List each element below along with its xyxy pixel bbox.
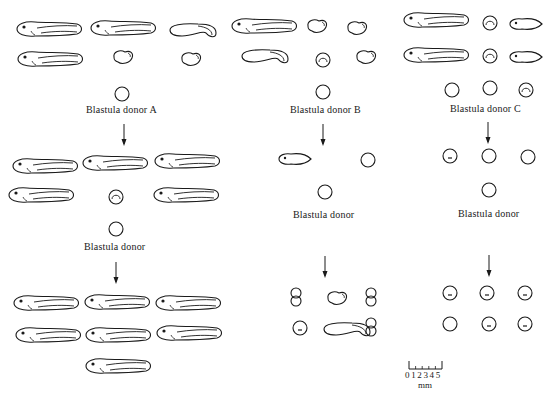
abnormal-embryo bbox=[242, 50, 288, 63]
column-a-generation-2 bbox=[9, 154, 220, 236]
tadpole bbox=[16, 328, 81, 342]
donor-label-c: Blastula donor C bbox=[450, 103, 521, 114]
tadpole bbox=[18, 52, 83, 66]
blastula bbox=[316, 53, 330, 67]
serial-transplant-diagram bbox=[0, 0, 547, 398]
abnormal-embryo bbox=[348, 22, 367, 35]
column-c-generation-2 bbox=[443, 149, 535, 197]
blastula bbox=[521, 150, 535, 164]
second-donor-label-b: Blastula donor bbox=[293, 209, 354, 220]
tadpole bbox=[14, 296, 79, 310]
scale-bar bbox=[409, 361, 442, 369]
blastula bbox=[518, 286, 532, 300]
column-a-generation-1 bbox=[17, 21, 216, 101]
tadpole bbox=[86, 359, 151, 373]
tadpole bbox=[91, 21, 156, 35]
column-a-generation-3 bbox=[14, 295, 222, 373]
abnormal-embryo bbox=[324, 323, 370, 336]
tadpole bbox=[155, 154, 220, 168]
abnormal-embryo bbox=[170, 24, 216, 37]
arrow-down-icon bbox=[122, 124, 127, 146]
blastula bbox=[316, 85, 330, 99]
blastula bbox=[115, 87, 129, 101]
blastula bbox=[445, 83, 459, 97]
tadpole bbox=[232, 19, 297, 33]
blastula bbox=[482, 149, 496, 163]
abnormal-embryo bbox=[366, 288, 376, 306]
blastula bbox=[482, 317, 496, 331]
blastula bbox=[483, 16, 497, 30]
tadpole bbox=[404, 13, 469, 27]
tadpole bbox=[154, 188, 219, 202]
tadpole bbox=[157, 326, 222, 340]
arrow-down-icon bbox=[486, 122, 491, 144]
tadpole bbox=[279, 154, 311, 165]
blastula bbox=[109, 222, 123, 236]
tadpole bbox=[86, 328, 151, 342]
blastula bbox=[518, 317, 532, 331]
abnormal-embryo bbox=[366, 318, 376, 336]
column-c-generation-3 bbox=[443, 286, 532, 331]
blastula bbox=[519, 83, 533, 97]
blastula bbox=[318, 185, 332, 199]
abnormal-embryo bbox=[293, 321, 307, 335]
abnormal-embryo bbox=[182, 53, 201, 66]
tadpole bbox=[9, 188, 74, 202]
second-donor-label-a: Blastula donor bbox=[84, 241, 145, 252]
blastula bbox=[443, 149, 457, 163]
blastula bbox=[483, 49, 497, 63]
abnormal-embryo bbox=[510, 52, 542, 63]
abnormal-embryo bbox=[328, 292, 347, 305]
column-c-generation-1 bbox=[404, 13, 542, 97]
arrow-down-icon bbox=[323, 256, 328, 278]
arrow-down-icon bbox=[114, 262, 119, 284]
blastula bbox=[109, 190, 123, 204]
tadpole bbox=[404, 48, 469, 62]
column-b-generation-3 bbox=[291, 288, 376, 336]
tadpole bbox=[85, 295, 150, 309]
tadpole bbox=[17, 22, 82, 36]
scale-bar-unit: mm bbox=[418, 380, 432, 390]
second-donor-label-c: Blastula donor bbox=[458, 208, 519, 219]
blastula bbox=[482, 183, 496, 197]
blastula bbox=[483, 81, 497, 95]
tadpole bbox=[156, 296, 221, 310]
donor-label-a: Blastula donor A bbox=[86, 104, 157, 115]
blastula bbox=[361, 153, 375, 167]
arrow-down-icon bbox=[321, 124, 326, 146]
column-b-generation-1 bbox=[232, 19, 376, 99]
donor-label-b: Blastula donor B bbox=[290, 104, 361, 115]
abnormal-embryo bbox=[114, 51, 133, 64]
column-b-generation-2 bbox=[279, 153, 375, 199]
abnormal-embryo bbox=[357, 51, 376, 64]
abnormal-embryo bbox=[308, 20, 327, 33]
arrow-down-icon bbox=[487, 255, 492, 277]
blastula bbox=[443, 317, 457, 331]
scale-bar-ticks: 0 1 2 3 4 5 bbox=[405, 370, 440, 380]
blastula bbox=[443, 286, 457, 300]
abnormal-embryo bbox=[510, 19, 542, 30]
tadpole bbox=[83, 156, 148, 170]
tadpole bbox=[13, 159, 78, 173]
blastula bbox=[480, 286, 494, 300]
abnormal-embryo bbox=[291, 288, 301, 306]
